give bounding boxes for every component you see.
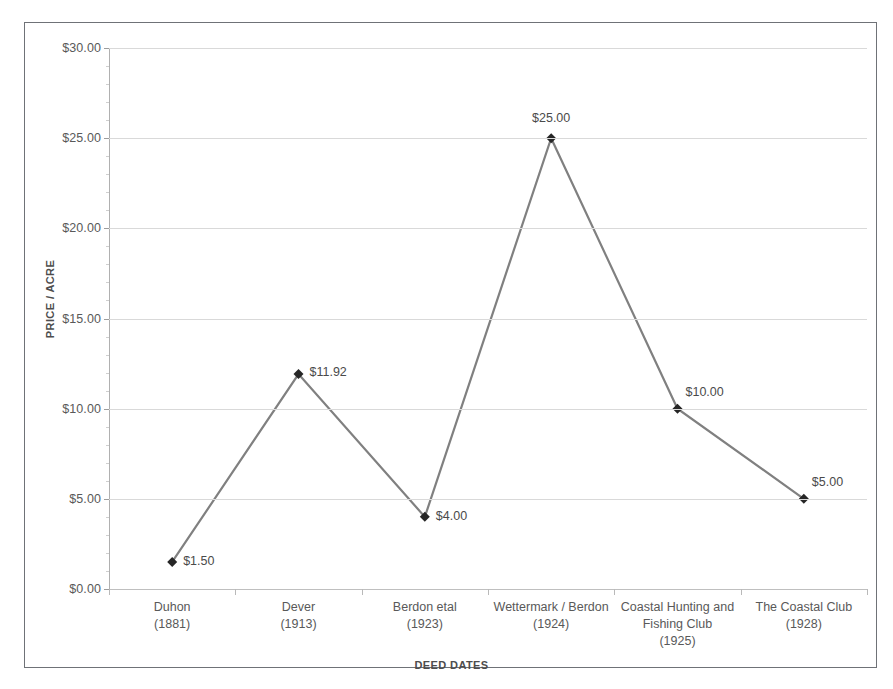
- y-axis-tick: [104, 228, 109, 229]
- y-axis-tick-label: $25.00: [31, 131, 101, 145]
- data-point-label: $25.00: [532, 111, 570, 125]
- y-axis-minor-tick: [106, 210, 109, 211]
- y-axis-minor-tick: [106, 300, 109, 301]
- y-axis-minor-tick: [106, 571, 109, 572]
- x-axis-tick: [614, 589, 615, 595]
- data-point-label: $5.00: [812, 475, 843, 489]
- y-axis-minor-tick: [106, 427, 109, 428]
- x-axis-tick: [235, 589, 236, 595]
- y-axis-tick: [104, 138, 109, 139]
- x-axis-category-name: Wettermark / Berdon: [492, 599, 610, 616]
- y-axis-tick-label: $30.00: [31, 41, 101, 55]
- gridline: [109, 319, 867, 320]
- x-axis-category-label: Berdon etal(1923): [362, 599, 488, 650]
- x-axis-category-name: Dever: [239, 599, 357, 616]
- y-axis-minor-tick: [106, 373, 109, 374]
- gridline: [109, 228, 867, 229]
- y-axis-tick-label: $10.00: [31, 402, 101, 416]
- y-axis-tick: [104, 48, 109, 49]
- y-axis-minor-tick: [106, 156, 109, 157]
- x-axis-tick-labels: Duhon(1881)Dever(1913)Berdon etal(1923)W…: [109, 599, 867, 650]
- y-axis-minor-tick: [106, 120, 109, 121]
- x-axis-tick: [109, 589, 110, 595]
- y-axis-minor-tick: [106, 355, 109, 356]
- y-axis-minor-tick: [106, 84, 109, 85]
- y-axis-minor-tick: [106, 445, 109, 446]
- y-axis-minor-tick: [106, 174, 109, 175]
- x-axis-category-label: The Coastal Club(1928): [741, 599, 867, 650]
- plot-area: $1.50$11.92$4.00$25.00$10.00$5.00: [109, 48, 867, 589]
- x-axis-category-year: (1924): [492, 616, 610, 633]
- y-axis-minor-tick: [106, 535, 109, 536]
- x-axis-tick: [488, 589, 489, 595]
- x-axis-category-name: Coastal Hunting and Fishing Club: [618, 599, 736, 633]
- y-axis-minor-tick: [106, 337, 109, 338]
- data-point-label: $11.92: [310, 365, 347, 379]
- y-axis-minor-tick: [106, 553, 109, 554]
- y-axis-minor-tick: [106, 246, 109, 247]
- chart-frame: PRICE / ACRE $0.00$5.00$10.00$15.00$20.0…: [24, 22, 877, 668]
- y-axis-minor-tick: [106, 264, 109, 265]
- x-axis-category-label: Coastal Hunting and Fishing Club(1925): [614, 599, 740, 650]
- y-axis-minor-tick: [106, 66, 109, 67]
- y-axis-minor-tick: [106, 481, 109, 482]
- y-axis-minor-tick: [106, 192, 109, 193]
- y-axis-minor-tick: [106, 391, 109, 392]
- x-axis-category-year: (1928): [745, 616, 863, 633]
- x-axis-category-label: Dever(1913): [235, 599, 361, 650]
- x-axis-category-name: Duhon: [113, 599, 231, 616]
- x-axis-category-name: The Coastal Club: [745, 599, 863, 616]
- x-axis-title: DEED DATES: [25, 659, 878, 671]
- y-axis-tick-labels: $0.00$5.00$10.00$15.00$20.00$25.00$30.00: [35, 48, 101, 589]
- x-axis-category-year: (1881): [113, 616, 231, 633]
- x-axis-category-year: (1925): [618, 633, 736, 650]
- y-axis-tick-label: $15.00: [31, 312, 101, 326]
- y-axis-minor-tick: [106, 463, 109, 464]
- data-point-label: $10.00: [686, 385, 724, 399]
- gridline: [109, 409, 867, 410]
- y-axis-tick: [104, 409, 109, 410]
- y-axis-minor-tick: [106, 517, 109, 518]
- x-axis-category-label: Duhon(1881): [109, 599, 235, 650]
- y-axis-tick: [104, 319, 109, 320]
- x-axis-category-name: Berdon etal: [366, 599, 484, 616]
- x-axis-tick: [741, 589, 742, 595]
- x-axis-category-year: (1923): [366, 616, 484, 633]
- x-axis-category-label: Wettermark / Berdon(1924): [488, 599, 614, 650]
- y-axis-minor-tick: [106, 102, 109, 103]
- y-axis-tick-label: $5.00: [31, 492, 101, 506]
- gridline: [109, 499, 867, 500]
- y-axis-tick: [104, 499, 109, 500]
- x-axis-tick: [867, 589, 868, 595]
- y-axis-minor-tick: [106, 282, 109, 283]
- x-axis-tick: [362, 589, 363, 595]
- x-axis-category-year: (1913): [239, 616, 357, 633]
- data-point-label: $4.00: [436, 509, 467, 523]
- data-point-label: $1.50: [183, 554, 214, 568]
- gridline: [109, 48, 867, 49]
- y-axis-tick-label: $0.00: [31, 582, 101, 596]
- gridline: [109, 138, 867, 139]
- y-axis-tick-label: $20.00: [31, 221, 101, 235]
